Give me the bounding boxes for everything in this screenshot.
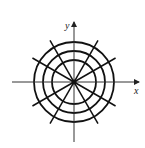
y-axis-label: y <box>64 20 70 31</box>
x-axis-label: x <box>133 85 139 96</box>
polar-grid-diagram: x y <box>0 0 145 148</box>
origin-dot <box>72 80 77 85</box>
